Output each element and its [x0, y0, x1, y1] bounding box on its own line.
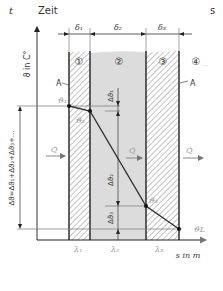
conductivity-3: λ₃	[154, 245, 163, 254]
thickness-delta-3: δ₃	[158, 23, 166, 32]
time-label: Zeit	[38, 5, 58, 16]
layer-4-suffix: ...	[203, 61, 208, 67]
heat-flow-label-1: Q̇	[51, 145, 58, 154]
point-t1	[67, 104, 71, 108]
delta-2-label: Δϑ₂	[107, 174, 115, 186]
point-t2	[88, 109, 92, 113]
label-t2: ϑ₂	[76, 116, 85, 125]
total-delta-label: Δϑ=Δϑ₁+Δϑ₂+Δϑ₃+...	[8, 130, 16, 205]
heat-conduction-diagram: t Zeit s ϑ in C° s in m δ₁ δ₂ δ₃ ① ② ③ ④…	[0, 0, 223, 291]
layer-1-hatch	[69, 51, 90, 240]
surface-marker-left: A	[56, 79, 62, 88]
layer-number-1: ①	[75, 56, 84, 67]
conductivity-2: λ₂	[110, 245, 119, 254]
point-t3	[144, 204, 148, 208]
layer-3-hatch	[146, 51, 179, 240]
layer-number-3: ③	[159, 56, 168, 67]
label-t1: ϑ₁	[58, 96, 67, 105]
time-unit: s	[210, 5, 215, 16]
heat-flow-label-3: Q̇	[186, 146, 193, 155]
heat-flow-label-2: Q̇	[129, 146, 136, 155]
delta-1-label: Δϑ₁	[107, 90, 115, 102]
conductivity-1: λ₁	[73, 245, 82, 254]
point-tL	[177, 227, 181, 231]
surface-marker-right: A	[190, 79, 196, 88]
layer-number-4: ④	[192, 56, 201, 67]
layer-number-2: ②	[115, 56, 124, 67]
label-tL: ϑL	[194, 225, 205, 234]
label-t3: ϑ₃	[149, 196, 158, 205]
delta-3-label: Δϑ₃	[107, 212, 115, 224]
thickness-delta-1: δ₁	[75, 23, 83, 32]
x-axis-label: s in m	[176, 251, 201, 260]
thickness-delta-2: δ₂	[114, 23, 122, 32]
time-symbol: t	[9, 5, 14, 16]
y-axis-label: ϑ in C°	[23, 51, 32, 78]
